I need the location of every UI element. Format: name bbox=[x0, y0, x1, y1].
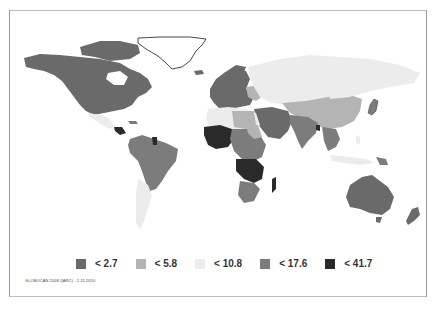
region-iceland bbox=[194, 70, 204, 75]
legend-label: < 41.7 bbox=[344, 258, 372, 269]
region-philippines bbox=[356, 135, 360, 145]
region-bangladesh bbox=[316, 125, 320, 131]
region-png bbox=[376, 157, 388, 165]
source-credit: GLOBOCAN 2008 (IARC) - 2.11.2010 bbox=[25, 278, 95, 283]
region-caribbean bbox=[128, 121, 138, 124]
region-southern-central-africa bbox=[236, 159, 264, 183]
legend-swatch bbox=[76, 259, 86, 269]
legend-swatch bbox=[136, 259, 146, 269]
legend-item-5: < 41.7 bbox=[325, 258, 372, 269]
world-map bbox=[10, 11, 426, 251]
region-madagascar bbox=[272, 177, 276, 193]
region-mexico bbox=[88, 113, 114, 129]
legend-label: < 17.6 bbox=[279, 258, 307, 269]
legend: < 2.7 < 5.8 < 10.8 < 17.6 < 41.7 bbox=[76, 258, 390, 269]
legend-label: < 5.8 bbox=[155, 258, 178, 269]
region-south-africa bbox=[238, 181, 260, 203]
legend-item-3: < 10.8 bbox=[195, 258, 242, 269]
legend-swatch bbox=[260, 259, 270, 269]
region-tasmania bbox=[376, 217, 382, 223]
region-southeast-asia bbox=[322, 127, 340, 151]
legend-swatch bbox=[195, 259, 205, 269]
region-greenland bbox=[138, 37, 206, 69]
region-indonesia bbox=[330, 155, 374, 165]
legend-label: < 10.8 bbox=[214, 258, 242, 269]
region-japan bbox=[368, 99, 378, 115]
region-north-america bbox=[24, 54, 152, 115]
legend-swatch bbox=[325, 259, 335, 269]
region-new-zealand bbox=[406, 207, 420, 225]
region-west-africa bbox=[204, 125, 234, 149]
region-australia bbox=[346, 175, 394, 215]
legend-label: < 2.7 bbox=[95, 258, 118, 269]
region-central-america bbox=[114, 127, 126, 135]
legend-item-4: < 17.6 bbox=[260, 258, 307, 269]
legend-item-1: < 2.7 bbox=[76, 258, 118, 269]
legend-item-2: < 5.8 bbox=[136, 258, 178, 269]
